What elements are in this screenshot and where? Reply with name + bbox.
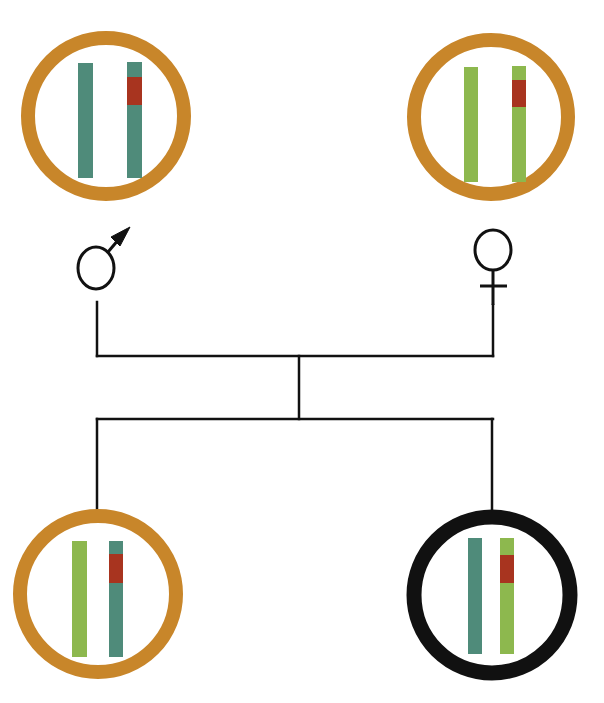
mutant-segment (500, 555, 514, 583)
child-2-affected-individual (414, 517, 570, 673)
pedigree-lines (97, 302, 493, 510)
pedigree-diagram (0, 0, 604, 703)
female-symbol-icon (475, 230, 511, 305)
chromosome-1 (464, 67, 478, 182)
affected-ring (414, 517, 570, 673)
chromosome-1 (468, 538, 482, 654)
chromosome-1 (78, 63, 93, 178)
mutant-segment (127, 77, 142, 105)
unaffected-ring (28, 38, 184, 194)
unaffected-ring (20, 516, 176, 672)
mutant-segment (109, 554, 123, 583)
chromosome-1 (72, 541, 87, 657)
male-symbol-icon (78, 227, 130, 289)
mother-individual (414, 40, 568, 194)
child-1-individual (20, 516, 176, 672)
mutant-segment (512, 80, 526, 107)
unaffected-ring (414, 40, 568, 194)
father-individual (28, 38, 184, 194)
